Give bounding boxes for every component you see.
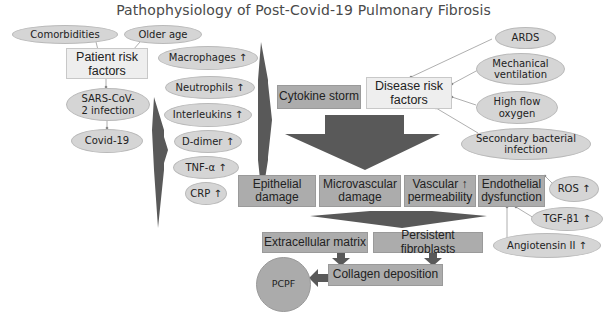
ellipse-macrophages: Macrophages ↑ (158, 46, 258, 70)
box-microvascular-damage: Microvascular damage (319, 175, 401, 207)
ellipse-comorbidities: Comorbidities (12, 25, 118, 44)
up-arrow-icon: ↑ (218, 162, 226, 173)
ellipse-mechanical-ventilation: Mechanical ventilation (476, 53, 565, 85)
flat-down-arrow (310, 211, 487, 228)
up-arrow-icon: ↑ (239, 52, 247, 63)
box-patient-risk-factors: Patient risk factors (66, 48, 148, 79)
d-dimer-label: D-dimer (182, 136, 222, 147)
neutrophils-label: Neutrophils (176, 82, 233, 93)
ellipse-tgf-beta1: TGF-β1 ↑ (531, 207, 603, 231)
diagram-canvas: Pathophysiology of Post-Covid-19 Pulmona… (0, 0, 607, 324)
ellipse-neutrophils: Neutrophils ↑ (165, 76, 255, 99)
box-disease-risk-factors: Disease risk factors (366, 77, 452, 109)
circle-pcpf: PCPF (256, 257, 311, 312)
ellipse-sars-cov2-infection: SARS-CoV-2 infection (66, 88, 150, 121)
tnf-alpha-label: TNF-α (185, 162, 215, 173)
up-arrow-icon: ↑ (236, 82, 244, 93)
ellipse-older-age: Older age (124, 25, 202, 44)
ellipse-d-dimer: D-dimer ↑ (174, 130, 242, 153)
box-endothelial-dysfunction: Endothelial dysfunction (478, 175, 545, 207)
ellipse-interleukins: Interleukins ↑ (164, 103, 252, 127)
macrophages-label: Macrophages (169, 52, 236, 63)
ellipse-angiotensin-ii: Angiotensin II ↑ (493, 233, 601, 258)
ellipse-covid19: Covid-19 (71, 129, 143, 153)
box-extracellular-matrix: Extracellular matrix (262, 232, 368, 253)
connector-high-flow (452, 97, 476, 105)
box-collagen-deposition: Collagen deposition (328, 264, 443, 286)
crp-label: CRP (190, 188, 210, 199)
big-down-arrow (285, 115, 440, 170)
ellipse-secondary-bacterial-infection: Secondary bacterial infection (461, 128, 591, 160)
up-arrow-icon: ↑ (213, 188, 221, 199)
diagram-title: Pathophysiology of Post-Covid-19 Pulmona… (0, 2, 607, 18)
ellipse-ards: ARDS (495, 27, 556, 49)
box-cytokine-storm: Cytokine storm (277, 85, 361, 109)
connector-secondary-inf (436, 108, 478, 133)
ellipse-crp: CRP ↑ (185, 182, 227, 205)
up-arrow-icon: ↑ (226, 136, 234, 147)
connector-mech-vent (452, 70, 478, 84)
ellipse-tnf-alpha: TNF-α ↑ (173, 156, 239, 179)
box-epithelial-damage: Epithelial damage (238, 175, 316, 207)
up-arrow-icon: ↑ (235, 109, 243, 120)
interleukins-label: Interleukins (173, 109, 232, 120)
box-persistent-fibroblasts: Persistent fibroblasts (373, 232, 483, 253)
ellipse-ros: ROS ↑ (549, 176, 599, 202)
ellipse-high-flow-oxygen: High flow oxygen (476, 91, 558, 124)
left-arrow-pcpf (309, 269, 328, 287)
box-vascular-permeability: Vascular ↑ permeability (404, 175, 476, 207)
